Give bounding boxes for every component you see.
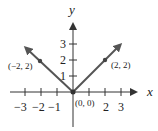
point-origin [71,90,76,95]
x-axis-label: x [146,84,153,99]
point-label-origin: (0, 0) [75,98,95,108]
point-left [38,59,42,63]
x-tick-label: −3 [14,100,27,114]
y-tick-label: 2 [60,53,66,67]
x-tick-label: −2 [32,100,45,114]
y-tick-label: 3 [60,37,66,51]
y-tick-label: 1 [60,69,66,83]
y-axis-label: y [67,2,75,17]
absolute-value-graph: x y −3 −2 −1 2 3 1 2 3 (−2, 2) (0, 0) (2… [0,0,158,131]
x-tick-label: 2 [103,100,109,114]
point-label-left: (−2, 2) [8,61,33,71]
x-tick-label: −1 [48,100,61,114]
point-right [103,58,107,62]
x-tick-label: 3 [118,100,124,114]
point-label-right: (2, 2) [111,60,131,70]
